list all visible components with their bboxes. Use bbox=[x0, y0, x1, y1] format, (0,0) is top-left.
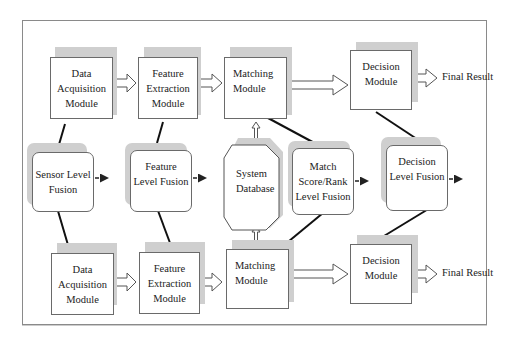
bottom-data-acquisition-module: Data Acquisition Module bbox=[51, 253, 114, 315]
box-label: Feature Level Fusion bbox=[133, 159, 189, 189]
box-label: Matching Module bbox=[233, 66, 284, 96]
box-label: Data Acquisition Module bbox=[54, 262, 111, 307]
bottom-feature-extraction-module: Feature Extraction Module bbox=[139, 252, 200, 314]
decision-level-fusion: Decision Level Fusion bbox=[386, 145, 448, 211]
top-decision-module: Decision Module bbox=[350, 50, 412, 110]
box-label: Data Acquisition Module bbox=[53, 66, 110, 111]
top-data-acquisition-module: Data Acquisition Module bbox=[50, 57, 113, 119]
box-label: Sensor Level Fusion bbox=[35, 167, 91, 197]
top-feature-extraction-module: Feature Extraction Module bbox=[138, 57, 198, 119]
box-label: Decision Module bbox=[353, 253, 409, 283]
feature-level-fusion: Feature Level Fusion bbox=[130, 150, 192, 212]
box-label: Feature Extraction Module bbox=[141, 66, 195, 111]
box-label: Feature Extraction Module bbox=[142, 261, 197, 306]
top-matching-module: Matching Module bbox=[224, 57, 287, 119]
box-label: Matching Module bbox=[235, 258, 286, 288]
top-final-result: Final Result bbox=[442, 71, 493, 82]
match-score-rank-level-fusion: Match Score/Rank Level Fusion bbox=[292, 148, 354, 215]
bottom-decision-module: Decision Module bbox=[350, 244, 412, 304]
bottom-matching-module: Matching Module bbox=[226, 249, 289, 309]
box-label: Match Score/Rank Level Fusion bbox=[295, 159, 351, 204]
box-label: Decision Level Fusion bbox=[389, 154, 445, 184]
bottom-final-result: Final Result bbox=[442, 267, 493, 278]
sensor-level-fusion: Sensor Level Fusion bbox=[32, 152, 94, 212]
box-label: Decision Module bbox=[353, 59, 409, 89]
system-database-label: System Database bbox=[236, 166, 276, 196]
